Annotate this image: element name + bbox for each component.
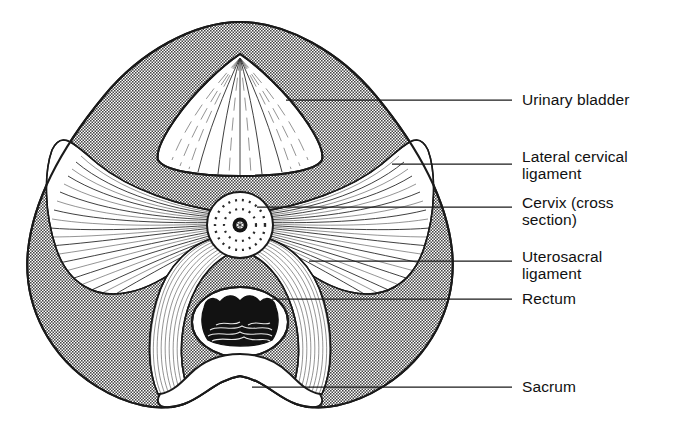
label-urinary-bladder-line-0: Urinary bladder bbox=[522, 91, 629, 108]
label-urinary-bladder: Urinary bladder bbox=[522, 91, 629, 108]
label-cervix-cross-section-line-1: section) bbox=[522, 211, 577, 228]
cervix-body bbox=[207, 192, 273, 258]
label-lateral-cervical-ligament-line-0: Lateral cervical bbox=[522, 148, 628, 165]
label-rectum-line-0: Rectum bbox=[522, 290, 576, 307]
label-rectum: Rectum bbox=[522, 290, 576, 307]
rectum-body bbox=[192, 287, 288, 357]
label-cervix-cross-section-line-0: Cervix (cross bbox=[522, 194, 614, 211]
label-sacrum: Sacrum bbox=[522, 378, 576, 395]
label-uterosacral-ligament-line-0: Uterosacral bbox=[522, 248, 602, 265]
label-uterosacral-ligament-line-1: ligament bbox=[522, 265, 582, 282]
label-lateral-cervical-ligament-line-1: ligament bbox=[522, 165, 582, 182]
anatomical-figure: Urinary bladder Lateral cervical ligamen… bbox=[0, 0, 676, 436]
pelvis-diagram-svg: Urinary bladder Lateral cervical ligamen… bbox=[0, 0, 676, 436]
label-sacrum-line-0: Sacrum bbox=[522, 378, 576, 395]
